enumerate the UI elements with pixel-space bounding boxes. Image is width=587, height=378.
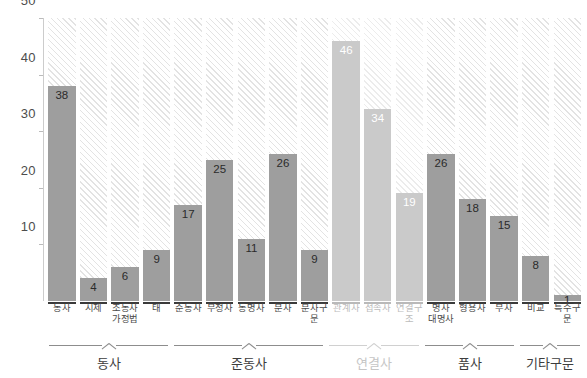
bar-fill: 19 — [396, 193, 423, 301]
bar-column[interactable]: 18 — [459, 18, 486, 301]
bar-value-label: 11 — [238, 242, 265, 254]
category-label-line1: 접속사 — [364, 303, 391, 314]
brace-graphic — [174, 338, 323, 347]
bar-value-label: 26 — [427, 157, 454, 169]
category-label: 분사구문 — [301, 303, 328, 331]
bar-column[interactable]: 38 — [48, 18, 75, 301]
bar-fill: 46 — [332, 41, 359, 301]
bar-column[interactable]: 9 — [301, 18, 328, 301]
group-label: 기타구문 — [520, 353, 580, 372]
bar-track — [554, 18, 581, 301]
group-brace: 준동사 — [174, 338, 323, 378]
bar-value-label: 18 — [459, 202, 486, 214]
category-label: 태 — [143, 303, 170, 331]
group-brace: 연결사 — [329, 338, 418, 378]
category-label: 준동사 — [174, 303, 201, 331]
group-label: 준동사 — [174, 353, 323, 372]
category-label: 부사 — [490, 303, 517, 331]
bar-fill: 38 — [48, 86, 75, 301]
bar-value-label: 6 — [111, 270, 138, 282]
category-label-line1: 연결구조 — [396, 303, 423, 324]
bar-fill: 9 — [143, 250, 170, 301]
category-label: 명사대명사 — [427, 303, 454, 331]
bar-column[interactable]: 11 — [238, 18, 265, 301]
bar-column[interactable]: 6 — [111, 18, 138, 301]
bar-value-label: 25 — [206, 163, 233, 175]
group-brace-row: 동사준동사연결사품사기타구문 — [46, 338, 583, 378]
y-tick-50: 50 — [21, 0, 36, 8]
bar-fill: 4 — [80, 278, 107, 301]
category-label-line1: 명사 — [427, 303, 454, 314]
category-label-line1: 시제 — [80, 303, 107, 314]
category-label-row: 동사시제조동사가정법태준동사부정사동명사분사분사구문관계사접속사연결구조명사대명… — [46, 303, 583, 331]
brace-graphic — [520, 338, 580, 347]
category-label: 형용사 — [459, 303, 486, 331]
y-tick-20: 20 — [21, 162, 36, 177]
bar-fill: 25 — [206, 160, 233, 302]
category-label: 분사 — [269, 303, 296, 331]
brace-graphic — [49, 338, 168, 347]
y-axis: 50 40 30 20 10 — [0, 0, 44, 300]
bar-fill: 8 — [522, 256, 549, 301]
bar-column[interactable]: 25 — [206, 18, 233, 301]
category-label-line1: 준동사 — [174, 303, 201, 314]
category-label: 연결구조 — [396, 303, 423, 331]
category-label-line1: 분사 — [269, 303, 296, 314]
category-label-line1: 태 — [143, 303, 170, 314]
brace-graphic — [329, 338, 418, 347]
category-label-line1: 분사구문 — [301, 303, 328, 324]
bar-column[interactable]: 17 — [174, 18, 201, 301]
category-label-line1: 동사 — [48, 303, 75, 314]
category-label-line1: 조동사 — [111, 303, 138, 314]
bar-fill: 11 — [238, 239, 265, 301]
category-label: 특수구문 — [554, 303, 581, 331]
bar-column[interactable]: 46 — [332, 18, 359, 301]
bar-value-label: 34 — [364, 112, 391, 124]
bar-column[interactable]: 34 — [364, 18, 391, 301]
group-brace: 기타구문 — [520, 338, 580, 378]
category-label-line1: 비교 — [522, 303, 549, 314]
category-label-line1: 부사 — [490, 303, 517, 314]
category-label: 동명사 — [238, 303, 265, 331]
bar-value-label: 26 — [269, 157, 296, 169]
bar-column[interactable]: 19 — [396, 18, 423, 301]
bar-column[interactable]: 15 — [490, 18, 517, 301]
bar-value-label: 38 — [48, 89, 75, 101]
category-label-line1: 형용사 — [459, 303, 486, 314]
bar-fill: 26 — [427, 154, 454, 301]
category-label: 동사 — [48, 303, 75, 331]
bar-value-label: 9 — [143, 253, 170, 265]
bar-fill: 26 — [269, 154, 296, 301]
category-label: 비교 — [522, 303, 549, 331]
plot-area: 3846917251126946341926181581 — [46, 18, 583, 301]
bar-column[interactable]: 26 — [427, 18, 454, 301]
bar-chart: 50 40 30 20 10 3846917251126946341926181… — [0, 0, 587, 378]
bar-fill: 1 — [554, 295, 581, 301]
bar-fill: 17 — [174, 205, 201, 301]
bar-column[interactable]: 9 — [143, 18, 170, 301]
group-brace: 동사 — [49, 338, 168, 378]
category-label-line2: 대명사 — [427, 314, 454, 325]
brace-graphic — [425, 338, 514, 347]
group-label: 동사 — [49, 353, 168, 372]
bar-value-label: 4 — [80, 281, 107, 293]
bar-fill: 6 — [111, 267, 138, 301]
bar-column[interactable]: 1 — [554, 18, 581, 301]
category-label-line2: 가정법 — [111, 314, 138, 325]
category-label-line1: 특수구문 — [554, 303, 581, 324]
bar-fill: 9 — [301, 250, 328, 301]
category-label-line1: 부정사 — [206, 303, 233, 314]
bar-fill: 34 — [364, 109, 391, 301]
group-label: 품사 — [425, 353, 514, 372]
y-tick-40: 40 — [21, 49, 36, 64]
bar-fill: 15 — [490, 216, 517, 301]
y-tick-10: 10 — [21, 219, 36, 234]
group-label: 연결사 — [329, 353, 418, 372]
bar-column[interactable]: 26 — [269, 18, 296, 301]
y-axis-line — [43, 18, 44, 301]
bar-value-label: 15 — [490, 219, 517, 231]
bar-column[interactable]: 8 — [522, 18, 549, 301]
bar-value-label: 46 — [332, 44, 359, 56]
bar-value-label: 8 — [522, 259, 549, 271]
bar-column[interactable]: 4 — [80, 18, 107, 301]
